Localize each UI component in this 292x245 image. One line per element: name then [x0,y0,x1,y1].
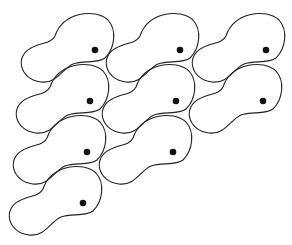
tile-dot [177,47,184,54]
peanut-tile [106,13,198,82]
peanut-tile [192,13,284,82]
peanut-tile [102,64,194,133]
peanut-tile [9,166,101,235]
tile-outline [13,115,105,184]
tile-outline [99,115,191,184]
tile-dot [260,98,267,105]
tile-outline [21,13,113,82]
tile-dot [84,149,91,156]
tile-dot [263,47,270,54]
tile-outline [192,13,284,82]
tile-dot [87,98,94,105]
peanut-tile [13,115,105,184]
tile-dot [170,149,177,156]
tile-outline [9,166,101,235]
tile-dot [80,200,87,207]
tile-outline [16,64,108,133]
tile-dot [173,98,180,105]
peanut-tile [99,115,191,184]
peanut-tile [189,64,281,133]
tile-dot [92,47,99,54]
peanut-tile [16,64,108,133]
tiling-diagram [0,0,292,245]
tile-outline [102,64,194,133]
tile-outline [189,64,281,133]
tile-outline [106,13,198,82]
peanut-tile [21,13,113,82]
